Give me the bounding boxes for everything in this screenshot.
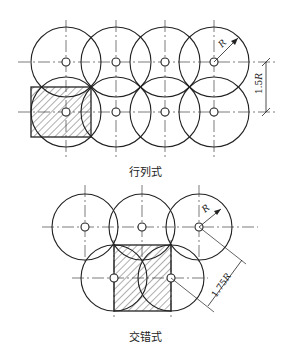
grid-arrangement	[18, 20, 275, 160]
radius-label-top: R	[216, 37, 229, 50]
caption-grid: 行列式	[0, 163, 290, 179]
radius-label-bottom: R	[199, 202, 212, 215]
dimension-label-top: 1.5R	[254, 73, 264, 94]
staggered-arrangement	[42, 185, 258, 318]
caption-staggered: 交错式	[0, 328, 290, 344]
dimension-label-bottom: 1.75R	[209, 271, 233, 299]
